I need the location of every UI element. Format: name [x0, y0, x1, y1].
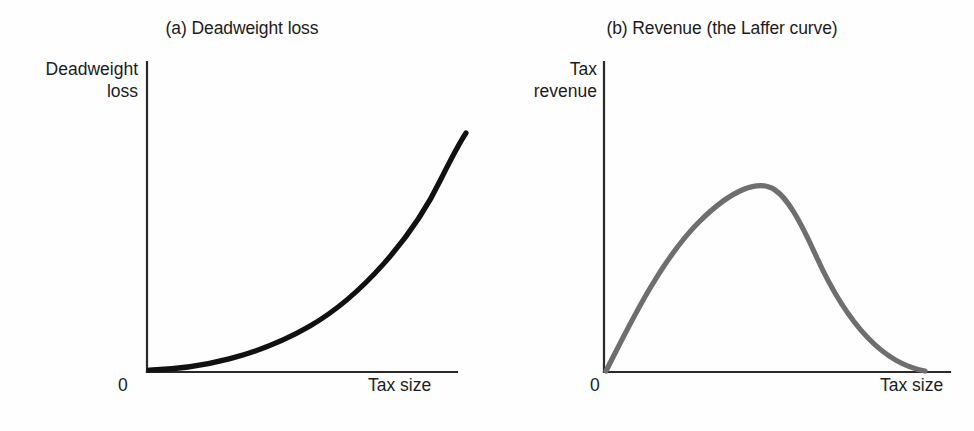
laffer-curve	[606, 186, 925, 371]
panel-deadweight-loss: (a) Deadweight loss Deadweight loss 0 Ta…	[0, 0, 487, 431]
panel-b-plot	[487, 0, 974, 431]
panel-laffer-curve: (b) Revenue (the Laffer curve) Tax reven…	[487, 0, 974, 431]
deadweight-loss-curve	[149, 133, 466, 370]
panel-a-plot	[0, 0, 487, 431]
figure-root: (a) Deadweight loss Deadweight loss 0 Ta…	[0, 0, 974, 431]
